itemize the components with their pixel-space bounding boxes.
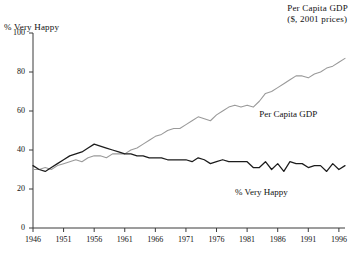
x-tick-label: 1976 <box>201 235 233 244</box>
series-annotation: Per Capita GDP <box>259 109 317 119</box>
chart-axes <box>29 33 345 232</box>
chart-plot-area <box>0 0 356 254</box>
x-tick-label: 1966 <box>139 235 171 244</box>
x-tick-label: 1961 <box>109 235 141 244</box>
y-tick-label: 100 <box>0 28 25 37</box>
x-tick-label: 1951 <box>48 235 80 244</box>
series-line-very-happy <box>33 144 345 171</box>
y-tick-label: 60 <box>0 106 25 115</box>
y-tick-label: 0 <box>0 223 25 232</box>
x-tick-label: 1986 <box>262 235 294 244</box>
x-tick-label: 1996 <box>323 235 355 244</box>
y-tick-label: 80 <box>0 67 25 76</box>
x-tick-label: 1981 <box>231 235 263 244</box>
series-annotation: % Very Happy <box>235 187 288 197</box>
x-tick-label: 1971 <box>170 235 202 244</box>
x-tick-label: 1946 <box>17 235 49 244</box>
y-tick-label: 20 <box>0 184 25 193</box>
x-tick-label: 1991 <box>292 235 324 244</box>
y-tick-label: 40 <box>0 145 25 154</box>
x-tick-label: 1956 <box>78 235 110 244</box>
chart-root: % Very Happy Per Capita GDP ($, 2001 pri… <box>0 0 356 254</box>
